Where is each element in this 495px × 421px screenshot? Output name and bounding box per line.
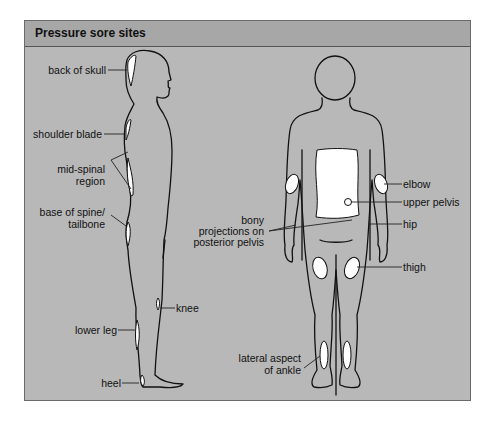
sore-right-thigh	[342, 255, 363, 280]
sore-upper-pelvis	[345, 199, 352, 206]
sore-tailbone	[126, 222, 130, 246]
sore-knee	[157, 298, 160, 310]
sore-left-ankle	[320, 341, 328, 369]
label-heel: heel	[101, 377, 121, 389]
sore-lower-leg	[136, 320, 140, 350]
label-thigh: thigh	[403, 261, 426, 273]
back-view-head	[315, 56, 355, 100]
label-lower-leg: lower leg	[75, 324, 117, 336]
label-lateral-ankle-2: of ankle	[264, 364, 301, 376]
sore-back-torso	[316, 149, 359, 219]
label-shoulder-blade: shoulder blade	[33, 128, 102, 140]
label-upper-pelvis: upper pelvis	[403, 196, 460, 208]
label-mid-spinal-1: mid-spinal	[57, 163, 105, 175]
label-elbow: elbow	[403, 178, 430, 190]
label-base-of-spine-1: base of spine/	[40, 206, 105, 218]
label-bony-projections-3: posterior pelvis	[193, 236, 264, 248]
label-knee: knee	[176, 302, 199, 314]
side-view-figure	[124, 50, 183, 387]
label-back-of-skull: back of skull	[48, 64, 106, 76]
sore-mid-spinal	[127, 158, 133, 196]
sore-shoulder-blade	[126, 119, 131, 140]
sore-left-thigh	[310, 256, 329, 281]
sore-back-of-skull	[128, 55, 136, 86]
label-lateral-ankle-1: lateral aspect	[239, 352, 301, 364]
sore-heel	[141, 375, 145, 386]
label-base-of-spine-2: tailbone	[68, 218, 105, 230]
sore-right-ankle	[343, 341, 351, 369]
label-hip: hip	[403, 218, 417, 230]
label-mid-spinal-2: region	[76, 175, 105, 187]
